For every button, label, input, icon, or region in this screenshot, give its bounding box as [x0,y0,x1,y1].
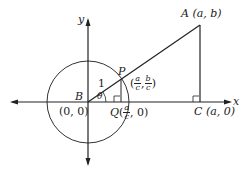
theta-arc-icon [103,92,106,102]
x-axis-left-arrow-icon [10,100,18,105]
right-angle-Q-icon [114,96,120,102]
point-C-label: C (a, 0) [194,106,235,117]
x-axis-right-arrow-icon [224,100,232,105]
origin-coords-label: (0, 0) [59,106,89,117]
diagram-canvas [0,0,241,172]
trig-diagram: y x A (a, b) B (0, 0) C (a, 0) P 1 θ (ac… [0,0,241,172]
right-angle-C-icon [193,96,199,102]
y-axis-up-arrow-icon [86,18,91,26]
theta-label: θ [97,92,102,101]
point-A-label: A (a, b) [181,8,222,19]
point-P-label: P [118,66,125,77]
point-B-label: B [75,91,83,102]
y-axis-down-arrow-icon [86,158,91,166]
Q-coords-label: Q(ac, 0) [110,104,148,121]
radius-label: 1 [98,78,105,89]
y-axis-label: y [78,14,84,25]
P-coords-label: (ac,bc) [130,75,156,92]
